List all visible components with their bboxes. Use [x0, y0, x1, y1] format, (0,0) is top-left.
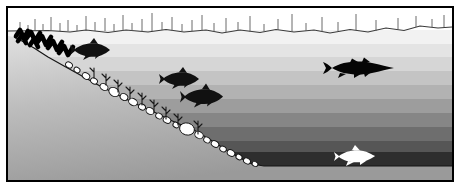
lake-cross-section-illustration [0, 0, 460, 188]
illustration-frame [6, 6, 454, 182]
sky-band [8, 8, 452, 30]
lake-scene-svg [8, 8, 452, 180]
